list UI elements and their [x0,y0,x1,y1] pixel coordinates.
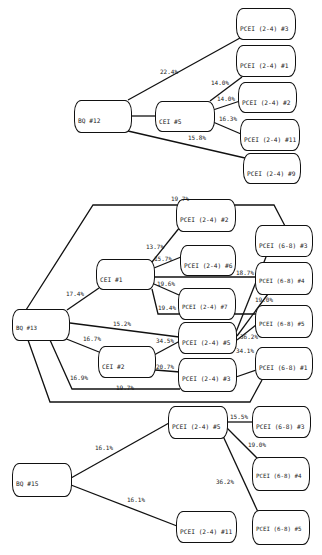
node-pcei68-5-realistic-mature-adults: PCEI (6-8) #5 Realistic Mature Adults [255,305,313,338]
node-pcei68-3-adapted-conventionalists: PCEI (6-8) #3 Adapted Conventionalists [255,225,313,257]
node-line: PCEI (2-4) #5 [182,339,233,346]
edge-label: 19.0% [255,297,273,303]
node-line: PCEI (2-4) #11 [244,136,296,143]
edge-label: 22.4% [160,69,178,75]
edge-label: 16.1% [127,497,145,503]
edge-label: 19.0% [248,442,266,448]
node-line: PCEI (2-4) #5 [172,423,224,430]
edge-label: 16.1% [95,445,113,451]
edge-label: 14.0% [211,80,229,86]
node-pcei24-1-concrete-careerists: PCEI (2-4) #1 Concrete Careerists [236,45,296,77]
node-pcei68-5-realistic-mature-adults: PCEI (6-8) #5 Realistic Mature Adults [252,510,310,545]
edge-label: 16.9% [70,375,88,381]
node-pcei24-5-self-developers: PCEI (2-4) #5 Self- Developers [168,406,228,439]
edge-label: 15.5% [230,414,248,420]
node-bq13-cognitively-complex-achievers: BQ #13 Cognitively Complex Achievers [12,309,70,341]
node-line: BQ #15 [16,480,68,487]
edge-label: 19.4% [158,305,176,311]
node-bq12-scholarly-bookworm: BQ #12 Scholarly Bookworm [74,100,132,133]
edge-label: 16.7% [83,336,101,342]
node-line: PCEI (2-4) #2 [242,99,293,106]
edge-label: 16.3% [219,116,237,122]
node-line: CEI #2 [102,363,152,370]
node-pcei24-11-unprepared-under-employeds: PCEI (2-4) #11 Unprepared Under-employed… [176,511,237,543]
node-pcei68-1-professionals: PCEI (6-8) #1 Professionals [255,347,313,380]
node-pcei24-2-immature-escapists: PCEI (2-4) #2 Immature Escapists [238,82,297,113]
node-pcei68-4-community-directed-housewives: PCEI (6-8) #4 Community- Directed Housew… [255,262,313,295]
node-pcei24-5-self-developers: PCEI (2-4) #5 Self- Developers [178,322,237,354]
edge-label: 18.7% [236,270,254,276]
node-pcei24-6-unaspiring-workers: PCEI (2-4) #6 Unaspiring Workers [180,245,236,276]
node-line: BQ #13 [16,325,66,332]
edge-label: 19.7% [171,196,189,202]
node-line: PCEI (2-4) #11 [180,528,233,535]
edge-label: 19.6% [157,281,175,287]
node-line: CEI #5 [159,118,211,125]
node-line: PCEI (6-8) #1 [259,364,309,371]
node-line: PCEI (6-8) #3 [259,242,309,249]
node-pcei68-4-community-directed-housewives: PCEI (6-8) #4 Community- Directed Housew… [252,457,310,491]
node-pcei24-7-satisfied-conventional-housewives: PCEI (2-4) #7 Satisfied Conventional Hou… [178,288,236,320]
node-pcei24-11-unprepared-underemployeds: PCEI (2-4) #11 Unprepared Underemployeds [240,119,300,151]
node-pcei24-3-religious-copers: PCEI (2-4) #3 Religious Copers [178,358,237,392]
edge-label: 34.5% [156,338,174,344]
node-cei1-traditional-daters: CEI #1 Traditional Daters [96,259,155,290]
edge-label: 14.0% [217,96,235,102]
node-line: PCEI (6-8) #3 [256,423,307,430]
node-line: PCEI (2-4) #6 [184,262,232,269]
node-line: CEI #1 [100,276,151,283]
edge-label: 19.7% [116,385,134,391]
edge-label: 20.7% [156,364,174,370]
edge-label: 34.1% [236,348,254,354]
edge-label: 15.2% [113,321,131,327]
node-pcei24-2-immature-escapists: PCEI (2-4) #2 Immature Escapists [176,199,236,232]
edge-label: 36.2% [216,479,234,485]
node-line: PCEI (6-8) #4 [256,473,306,480]
node-line: PCEI (2-4) #7 [182,304,232,311]
node-pcei24-3-religious-copers: PCEI (2-4) #3 Religious Copers [236,8,296,40]
node-line: PCEI (2-4) #2 [180,216,232,223]
node-cei5-self-supporting-women: CEI #5 Self-Supporting Women [155,101,215,132]
node-line: PCEI (2-4) #9 [247,170,297,177]
node-line: PCEI (2-4) #1 [240,62,292,69]
node-pcei24-9-schoolmarms: PCEI (2-4) #9 Schoolmarms [243,153,301,184]
node-line: BQ #12 [78,117,128,124]
edge-label: 17.4% [66,291,84,297]
edge-label: 15.8% [188,135,206,141]
node-line: PCEI (6-8) #4 [259,278,309,285]
node-line: PCEI (6-8) #5 [259,321,309,328]
node-line: PCEI (2-4) #3 [182,375,233,382]
node-cei2-effective-intellectuals: CEI #2 Effective Intellectuals [98,346,156,378]
node-line: PCEI (2-4) #3 [240,25,292,32]
edge-label: 13.7% [146,244,164,250]
edge-label: 15.7% [154,256,172,262]
edge-label: 36.2% [240,334,258,340]
node-line: PCEI (6-8) #5 [256,526,306,533]
node-bq15-goal-oriented-social-leaders: BQ #15 Goal-Oriented Social Leaders [12,463,72,497]
node-pcei68-3-adapted-conventionalists: PCEI (6-8) #3 Adapted Conventionalists [252,406,311,438]
